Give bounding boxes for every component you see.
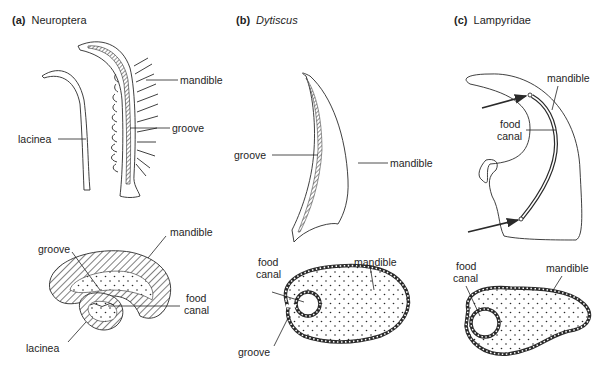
panel-c: (c) Lampyridae mandible food canal food … bbox=[453, 14, 590, 354]
label-b-mandible: mandible bbox=[390, 157, 433, 169]
label-b-groove: groove bbox=[234, 149, 266, 161]
label-b-mandible-bottom: mandible bbox=[354, 256, 397, 268]
panel-b: (b) Dytiscus groove mandible food canal … bbox=[234, 14, 433, 358]
leader-c-mandible bbox=[552, 86, 558, 110]
cross-section-a bbox=[49, 251, 170, 330]
panel-a-title: (a) Neuroptera bbox=[12, 14, 87, 26]
label-a-bottom-lacinea: lacinea bbox=[26, 342, 59, 354]
label-c-bottom-mandible: mandible bbox=[546, 262, 589, 274]
cross-section-b bbox=[285, 266, 408, 342]
label-b-canal: canal bbox=[256, 268, 281, 280]
label-a-bottom-mandible: mandible bbox=[170, 226, 213, 238]
arrow-icon-upper bbox=[482, 96, 526, 108]
label-a-bottom-canal: canal bbox=[184, 304, 209, 316]
label-c-bottom-canal: canal bbox=[453, 272, 478, 284]
panel-b-title: (b) Dytiscus bbox=[236, 14, 298, 26]
label-b-food: food bbox=[258, 256, 279, 268]
leader-a-bottom-mandible bbox=[148, 236, 166, 258]
panel-a: (a) Neuroptera bbox=[12, 14, 223, 354]
label-a-groove: groove bbox=[172, 122, 204, 134]
label-c-bottom-food: food bbox=[456, 260, 477, 272]
label-a-lacinea: lacinea bbox=[18, 133, 51, 145]
mandible-shape bbox=[78, 42, 140, 198]
label-c-mandible: mandible bbox=[547, 72, 590, 84]
label-a-mandible: mandible bbox=[180, 74, 223, 86]
leader-a-bottom-lacinea bbox=[68, 322, 86, 342]
mandible-right-setae bbox=[134, 58, 158, 176]
leader-c-bottom-mandible bbox=[552, 276, 562, 292]
mouthparts-figure: (a) Neuroptera bbox=[0, 0, 613, 372]
label-a-bottom-groove: groove bbox=[38, 243, 70, 255]
lacinea-shape bbox=[42, 71, 90, 190]
panel-c-title: (c) Lampyridae bbox=[454, 14, 531, 26]
mandible-left-bristles bbox=[111, 74, 118, 172]
cross-section-c bbox=[466, 288, 589, 355]
label-a-bottom-food: food bbox=[186, 292, 207, 304]
label-c-canal: canal bbox=[497, 130, 522, 142]
leader-b-groove-bottom bbox=[274, 318, 288, 346]
label-c-food: food bbox=[500, 118, 521, 130]
label-b-groove-bottom: groove bbox=[238, 346, 270, 358]
arrow-icon-lower bbox=[468, 220, 518, 232]
